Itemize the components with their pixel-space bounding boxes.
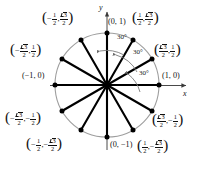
point-150 [60,57,65,62]
point-240 [79,128,84,133]
point-label-90: (0, 1) [108,18,126,26]
y-axis-label: y [99,3,103,12]
angle-label-2: 30° [133,48,143,56]
point-270 [105,135,110,140]
point-60 [131,38,136,43]
angle-arc-60-90 [100,50,124,55]
point-label-330: (32,−12) [152,112,183,128]
point-label-240: (−12,−32) [26,136,62,152]
x-axis-label: x [183,89,187,98]
unit-circle-figure: x y 30° 30° 30° (0, 1) (1, 0) (−1, 0) (0… [0,0,206,173]
point-180 [53,83,58,88]
point-300 [131,128,136,133]
point-label-150: (−32,12) [10,42,41,58]
point-0 [157,83,162,88]
angle-label-1: 30° [117,33,127,41]
point-210 [60,109,65,114]
point-label-0: (1, 0) [162,72,180,80]
point-label-60: (12,32) [132,10,159,26]
point-label-300: (12,−32) [137,138,168,154]
point-90 [105,31,110,36]
point-label-120: (−12,32) [42,10,73,26]
angle-label-3: 30° [139,69,149,77]
point-label-180: (−1, 0) [22,72,44,80]
point-label-30: (32,12) [154,42,181,58]
point-120 [79,38,84,43]
point-label-210: (−32,−12) [5,110,41,126]
point-label-270: (0, −1) [110,141,132,149]
